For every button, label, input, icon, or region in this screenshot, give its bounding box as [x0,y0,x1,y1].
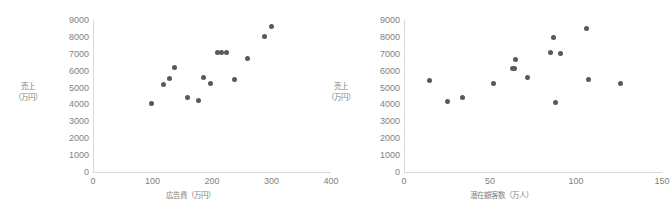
y-tick-label: 1000 [366,151,400,160]
y-tick-labels-right: 0100020003000400050006000700080009000 [366,20,400,172]
y-axis-line-left [93,20,94,172]
plot-area-right [404,20,662,172]
y-tick-label: 8000 [55,32,89,41]
y-tick-label: 1000 [55,151,89,160]
y-tick-label: 5000 [55,83,89,92]
data-point [269,24,274,29]
y-tick-label: 5000 [366,83,400,92]
y-tick-label: 6000 [55,66,89,75]
data-point [262,34,267,39]
y-tick-label: 4000 [55,100,89,109]
y-tick-label: 0 [55,168,89,177]
data-point [551,35,556,40]
data-point [548,50,553,55]
x-tick-labels-left: 0100200300400 [93,177,331,189]
y-axis-title-right: 売上 （万円） [319,81,363,103]
data-point [245,56,250,61]
y-axis-title-line-1: 売上 [21,82,35,91]
chart-potential-customers-vs-sales: 0100020003000400050006000700080009000 05… [331,0,662,209]
data-point [185,95,190,100]
y-tick-label: 3000 [55,117,89,126]
x-tick-label: 300 [264,177,279,186]
x-tick-label: 0 [90,177,95,186]
data-point [427,78,432,83]
data-point [586,77,591,82]
y-tick-label: 6000 [366,66,400,75]
y-axis-title-left: 売上 （万円） [6,81,50,103]
y-tick-label: 3000 [366,117,400,126]
y-tick-label: 7000 [366,49,400,58]
data-point [512,66,517,71]
data-point [584,26,589,31]
y-tick-label: 2000 [55,134,89,143]
x-tick-labels-right: 050100150 [404,177,662,189]
data-point [491,81,496,86]
x-axis-line-right [404,172,662,173]
y-tick-label: 2000 [366,134,400,143]
data-point [513,57,518,62]
data-point [208,81,213,86]
data-point [161,82,166,87]
y-tick-label: 9000 [366,16,400,25]
y-axis-title-line-2: （万円） [327,93,355,102]
data-point [149,101,154,106]
chart-advertising-vs-sales: 0100020003000400050006000700080009000 01… [0,0,331,209]
data-point [196,98,201,103]
data-point [224,50,229,55]
x-tick-label: 100 [568,177,583,186]
data-point [525,75,530,80]
data-point [553,100,558,105]
y-axis-line-right [404,20,405,172]
x-axis-line-left [93,172,331,173]
y-axis-title-line-1: 売上 [334,82,348,91]
data-point [167,76,172,81]
data-point [219,50,224,55]
data-point [172,65,177,70]
data-point [445,99,450,104]
x-tick-label: 200 [204,177,219,186]
x-tick-label: 100 [145,177,160,186]
y-tick-label: 7000 [55,49,89,58]
y-tick-label: 9000 [55,16,89,25]
x-tick-label: 150 [654,177,669,186]
x-tick-label: 50 [485,177,495,186]
x-tick-label: 0 [401,177,406,186]
y-tick-label: 0 [366,168,400,177]
y-tick-label: 8000 [366,32,400,41]
data-point [232,77,237,82]
data-point [201,75,206,80]
y-tick-label: 4000 [366,100,400,109]
y-tick-labels-left: 0100020003000400050006000700080009000 [55,20,89,172]
y-axis-title-line-2: （万円） [14,93,42,102]
plot-area-left [93,20,331,172]
data-point [618,81,623,86]
x-axis-title-left: 広告費（万円） [166,191,215,201]
x-axis-title-right: 潜在顧客数（万人） [470,191,533,201]
data-point [460,95,465,100]
data-point [558,51,563,56]
